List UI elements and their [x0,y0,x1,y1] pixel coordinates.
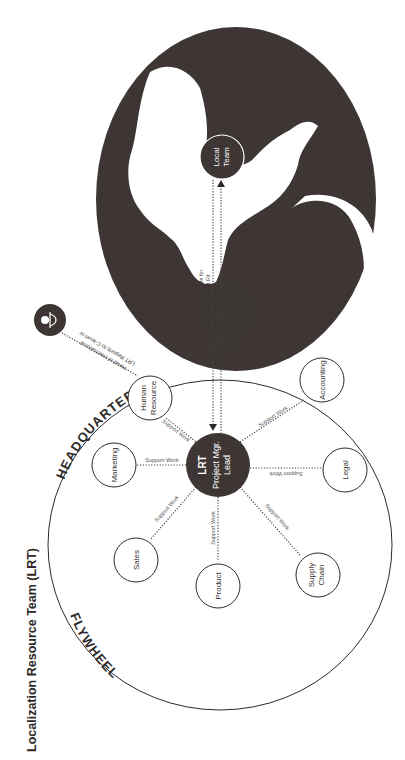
node-sales: Sales [114,538,158,582]
arrow-down-icon [209,424,217,431]
support-label-marketing: Support Work [145,457,179,463]
support-label-supply-chain: Support Work [264,502,291,531]
lrt-diagram: Local Team HEADQUARTERS FLYWHEEL Support… [0,0,405,760]
guardrails-label-3: Internationalization [241,292,247,339]
node-supply-chain: Supply Chain [296,553,340,597]
node-human-resource: Human Resource [128,376,172,420]
svg-text:Resource: Resource [149,380,158,415]
svg-text:Human: Human [139,385,148,411]
svg-text:Accounting: Accounting [318,360,327,400]
local-team-label-1: Local [212,147,221,166]
executive-report: LRT Reports to C-level or Head of Intern… [34,304,138,376]
svg-text:Lead: Lead [222,455,232,475]
support-label-sales: Support Work [153,494,180,523]
svg-text:Supply: Supply [307,563,316,587]
svg-text:Product: Product [214,571,223,599]
insights-label-1: Local Market Insights for [198,269,204,330]
guardrails-label-1: Navigate Corporate, Remove [227,279,233,351]
support-label-hr: Support Work [161,418,191,444]
insights-label-2: Company-Market Fit [205,274,211,325]
support-label-product: Support Work [210,511,216,545]
page-title: Localization Resource Team (LRT) [25,548,39,752]
lrt-center-node: LRT Project Mgr. Lead [186,433,250,497]
svg-text:Chain: Chain [317,565,326,586]
local-team-label-2: Team [222,147,231,167]
svg-text:LRT: LRT [197,455,208,474]
guardrails-label-4: (Guardrails) [248,300,254,330]
guardrails-label-2: Obstacles, and Shepherd [234,283,240,346]
node-marketing: Marketing [92,443,136,487]
svg-text:Legal: Legal [341,460,350,480]
svg-text:Project Mgr.: Project Mgr. [211,441,221,489]
node-accounting: Accounting [300,358,344,402]
node-product: Product [196,564,240,608]
svg-text:Marketing: Marketing [110,447,119,482]
node-legal: Legal [323,448,367,492]
support-label-legal: Support Work [269,471,303,477]
svg-text:Sales: Sales [132,550,141,570]
support-label-accounting: Support Work [257,405,289,428]
flywheel-arc-label: FLYWHEEL [67,610,122,681]
headquarters: HEADQUARTERS FLYWHEEL [48,380,392,710]
